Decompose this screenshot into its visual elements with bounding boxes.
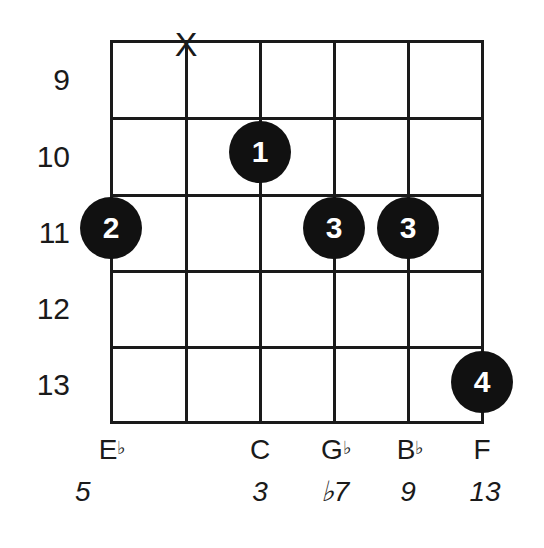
fret-label: 9 bbox=[10, 65, 70, 95]
note-label: B♭ bbox=[380, 436, 440, 464]
fret-line bbox=[110, 346, 484, 349]
interval-label: 3 bbox=[225, 478, 295, 506]
fret-line bbox=[110, 40, 484, 43]
finger-dot: 3 bbox=[377, 197, 439, 259]
string-2 bbox=[185, 40, 188, 424]
fret-line bbox=[110, 270, 484, 273]
fret-line bbox=[110, 421, 484, 424]
note-label: E♭ bbox=[82, 436, 142, 464]
interval-label: ♭7 bbox=[300, 478, 370, 506]
note-label: G♭ bbox=[306, 436, 366, 464]
note-label: C bbox=[230, 436, 290, 464]
fret-label: 10 bbox=[10, 142, 70, 172]
finger-dot: 4 bbox=[451, 351, 513, 413]
mute-x-icon: X bbox=[171, 27, 201, 61]
interval-label: 9 bbox=[373, 478, 443, 506]
finger-dot: 1 bbox=[229, 121, 291, 183]
interval-label: 5 bbox=[70, 478, 125, 506]
fret-label: 13 bbox=[10, 370, 70, 400]
fret-label: 11 bbox=[10, 218, 70, 248]
fret-line bbox=[110, 194, 484, 197]
fret-label: 12 bbox=[10, 294, 70, 324]
interval-label: 13 bbox=[450, 478, 520, 506]
note-label: F bbox=[452, 436, 512, 464]
string-3 bbox=[259, 40, 262, 424]
finger-dot: 3 bbox=[303, 197, 365, 259]
finger-dot: 2 bbox=[80, 197, 142, 259]
fret-line bbox=[110, 117, 484, 120]
